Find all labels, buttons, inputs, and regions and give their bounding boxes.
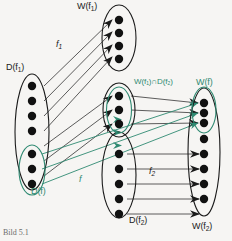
figure-caption: Bild 5.1 bbox=[3, 228, 29, 237]
dot-W-f2 bbox=[200, 195, 208, 203]
set-mapping-diagram bbox=[0, 0, 232, 241]
map-label-f: f bbox=[79, 175, 81, 184]
dot-D-f2 bbox=[115, 165, 123, 173]
set-label-D-f1: D(f1) bbox=[6, 63, 24, 72]
dot-W-f bbox=[200, 109, 208, 117]
figure-container: D(f1) D(f) W(f1) W(f₁)∩D(f₂) D(f2) W(f) … bbox=[0, 0, 232, 241]
dot-intersection bbox=[115, 120, 123, 128]
dot-D-f1 bbox=[28, 97, 36, 105]
set-label-W-f1: W(f1) bbox=[77, 2, 97, 11]
intersection-arrow-group bbox=[131, 96, 198, 124]
dot-D-f1 bbox=[28, 112, 36, 120]
dot-W-f bbox=[200, 99, 208, 107]
dot-D-f2 bbox=[115, 210, 123, 218]
intersection-arrow bbox=[131, 123, 198, 124]
dot-D-f2 bbox=[115, 150, 123, 158]
intersection-arrow bbox=[131, 96, 198, 103]
set-label-W-f: W(f) bbox=[196, 78, 213, 87]
set-label-D-f2: D(f2) bbox=[129, 216, 147, 225]
set-label-D-f: D(f) bbox=[31, 187, 46, 196]
dot-intersection bbox=[115, 92, 123, 100]
dot-W-f2 bbox=[200, 150, 208, 158]
f1-arrow bbox=[44, 96, 112, 146]
dot-D-f1 bbox=[28, 127, 36, 135]
set-label-W-f2: W(f2) bbox=[192, 222, 212, 231]
dot-D-f bbox=[28, 150, 36, 158]
f1-arrow bbox=[44, 20, 112, 86]
f-midhead bbox=[113, 142, 122, 149]
dot-intersection bbox=[115, 106, 123, 114]
f1-arrow bbox=[44, 110, 112, 161]
dot-W-f1 bbox=[115, 29, 123, 37]
dot-D-f bbox=[28, 165, 36, 173]
dot-D-f1 bbox=[28, 82, 36, 90]
map-label-f1: f1 bbox=[56, 40, 62, 49]
dot-W-f bbox=[200, 119, 208, 127]
set-label-intersection: W(f₁)∩D(f₂) bbox=[134, 78, 173, 86]
dot-W-f1 bbox=[115, 55, 123, 63]
dot-W-f2 bbox=[200, 180, 208, 188]
dot-W-f2 bbox=[200, 135, 208, 143]
f1-arrow bbox=[44, 57, 112, 131]
dot-W-f1 bbox=[115, 16, 123, 24]
f1-arrow bbox=[44, 45, 112, 116]
element-dots bbox=[28, 16, 208, 218]
dot-W-f2 bbox=[200, 165, 208, 173]
dot-D-f2 bbox=[115, 195, 123, 203]
intersection-arrow bbox=[131, 110, 198, 113]
dot-W-f1 bbox=[115, 42, 123, 50]
dot-D-f2 bbox=[115, 180, 123, 188]
map-label-f2: f2 bbox=[149, 167, 155, 176]
